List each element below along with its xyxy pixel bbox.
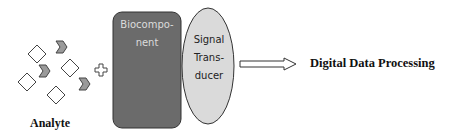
chevron-shape-2 (39, 65, 50, 77)
biocomponent-label-line1: Biocompo- (113, 16, 181, 34)
transducer-label-line2: Trans- (183, 49, 235, 67)
arrow-right-icon (240, 58, 296, 70)
biocomponent-label: Biocompo- nent (113, 16, 181, 52)
transducer-label-line1: Signal (183, 31, 235, 49)
transducer-label: Signal Trans- ducer (183, 31, 235, 85)
chevron-shape-3 (79, 78, 90, 90)
transducer-label-line3: ducer (183, 67, 235, 85)
plus-icon (95, 64, 107, 76)
analyte-label: Analyte (30, 116, 70, 131)
biocomponent-label-line2: nent (113, 34, 181, 52)
output-label: Digital Data Processing (310, 56, 435, 71)
diamond-shape-2 (61, 59, 79, 77)
biosensor-diagram: Biocompo- nent Signal Trans- ducer Digit… (0, 0, 449, 138)
chevron-shape-1 (56, 41, 67, 53)
diamond-shape-1 (28, 45, 46, 63)
diamond-shape-4 (47, 86, 65, 104)
analyte-diamonds (18, 45, 79, 104)
diamond-shape-3 (18, 73, 36, 91)
